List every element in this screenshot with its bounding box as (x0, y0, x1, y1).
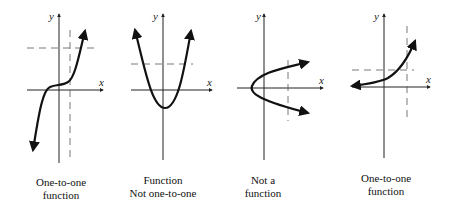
graph-exponential: x y (352, 10, 431, 158)
caption-line-2: function (6, 189, 116, 202)
graph-parabola: x y (131, 10, 212, 160)
caption-parabola: Function Not one-to-one (108, 174, 218, 200)
caption-line-2: function (208, 187, 318, 200)
caption-line-1: One-to-one (6, 176, 116, 189)
caption-cubic: One-to-one function (6, 176, 116, 202)
x-axis-label: x (206, 76, 212, 88)
caption-line-1: Function (108, 174, 218, 187)
y-axis-label: y (152, 10, 158, 22)
y-axis-label: y (373, 10, 379, 22)
caption-exponential: One-to-one function (331, 172, 441, 198)
graph-sideways-parabola: x y (237, 10, 324, 160)
x-axis-label: x (425, 73, 431, 85)
x-axis-label: x (318, 74, 324, 86)
y-axis-label: y (48, 10, 54, 22)
caption-line-1: Not a (208, 174, 318, 187)
x-axis-label: x (98, 76, 104, 88)
y-axis-label: y (255, 10, 261, 22)
caption-line-1: One-to-one (331, 172, 441, 185)
graph-cubic: x y (27, 10, 104, 163)
caption-line-2: function (331, 185, 441, 198)
caption-sideways-parabola: Not a function (208, 174, 318, 200)
caption-line-2: Not one-to-one (108, 187, 218, 200)
